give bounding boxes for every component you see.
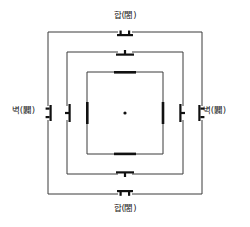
outer-gate-bottom-post-right — [128, 192, 130, 196]
enclosure-plan-diagram: 합(閤) 합(閤) 벽(闢) 벽(闢) — [0, 0, 250, 227]
middle-gate-left-post — [65, 112, 69, 114]
outer-gate-top-post-left — [120, 31, 122, 35]
outer-gate-bottom-lintel — [117, 190, 133, 192]
outer-gate-bottom-post-left — [120, 192, 122, 196]
outer-gate-top — [117, 31, 133, 37]
middle-gate-right-post — [181, 112, 185, 114]
outer-gate-left-post-upper — [46, 108, 50, 110]
inner-gate-right-bar — [162, 102, 165, 124]
inner-gate-bottom-bar — [114, 153, 136, 156]
middle-gate-bottom-post — [124, 173, 126, 177]
inner-gate-top-bar — [114, 71, 136, 74]
outer-gate-top-lintel — [117, 34, 133, 36]
outer-gate-right-post-lower — [200, 116, 204, 118]
middle-gate-bottom — [116, 171, 134, 177]
middle-gate-top-post — [124, 50, 126, 54]
middle-gate-right — [179, 104, 185, 122]
middle-gate-top — [116, 50, 134, 56]
outer-gate-bottom — [117, 190, 133, 196]
middle-gate-left — [65, 104, 71, 122]
outer-gate-left — [46, 105, 52, 121]
label-bottom-gate: 합(閤) — [0, 203, 250, 213]
center-point-marker — [123, 111, 126, 114]
outer-gate-left-jamb — [50, 105, 52, 121]
label-right-gate: 벽(闢) — [203, 105, 226, 115]
outer-gate-right-jamb — [198, 105, 200, 121]
label-left-gate: 벽(闢) — [12, 105, 35, 115]
label-top-gate: 합(閤) — [0, 10, 250, 20]
inner-gate-left-bar — [86, 102, 89, 124]
outer-gate-top-post-right — [128, 31, 130, 35]
outer-gate-left-post-lower — [46, 116, 50, 118]
